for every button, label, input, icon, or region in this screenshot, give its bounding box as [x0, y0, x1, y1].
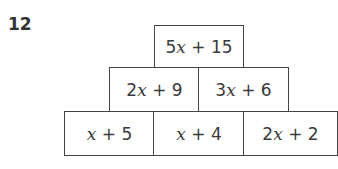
constant-term: + 4	[186, 124, 222, 144]
variable: x	[273, 124, 283, 144]
coefficient: 5	[165, 37, 176, 57]
constant-term: + 9	[147, 80, 183, 100]
coefficient: 2	[126, 80, 137, 100]
pyramid-cell-bottom-left: x + 5	[64, 111, 155, 156]
variable: x	[176, 124, 186, 144]
variable: x	[226, 80, 236, 100]
pyramid-cell-bottom-right: 2x + 2	[243, 111, 338, 156]
constant-term: + 15	[186, 37, 233, 57]
question-number: 12	[8, 14, 32, 34]
coefficient: 3	[215, 80, 226, 100]
constant-term: + 5	[96, 124, 132, 144]
coefficient: 2	[262, 124, 273, 144]
constant-term: + 2	[283, 124, 319, 144]
constant-term: + 6	[236, 80, 272, 100]
pyramid-cell-middle-right: 3x + 6	[198, 67, 289, 112]
variable: x	[137, 80, 147, 100]
variable: x	[176, 37, 186, 57]
pyramid-cell-bottom-middle: x + 4	[153, 111, 245, 156]
variable: x	[87, 124, 97, 144]
pyramid-cell-middle-left: 2x + 9	[109, 67, 200, 112]
pyramid-cell-top: 5x + 15	[154, 25, 244, 69]
